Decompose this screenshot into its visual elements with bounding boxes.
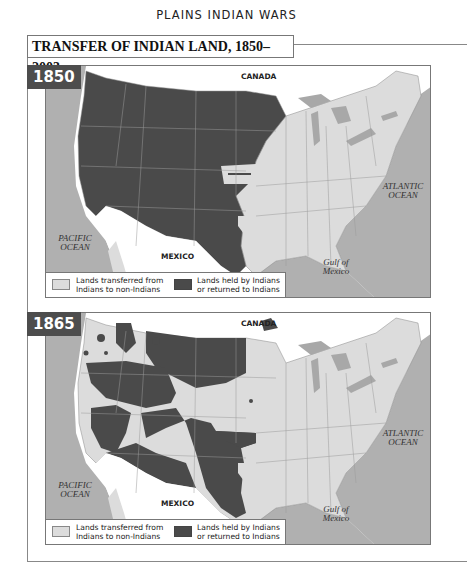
legend-swatch-transferred [52,526,70,537]
label-mexico: MEXICO [161,252,194,261]
legend-swatch-transferred [52,279,70,290]
legend-label-transferred: Lands transferred from Indians to non-In… [76,276,171,294]
year-tag-1865: 1865 [27,312,81,336]
label-gulf-of-mexico: Gulf of Mexico [316,258,356,276]
label-gulf-of-mexico: Gulf of Mexico [316,505,356,523]
map-1865: CANADA MEXICO PACIFIC OCEAN ATLANTIC OCE… [45,312,431,545]
legend-swatch-held [174,526,192,537]
year-tag-1850: 1850 [27,65,81,89]
label-atlantic-ocean: ATLANTIC OCEAN [376,429,430,447]
figure-title: TRANSFER OF INDIAN LAND, 1850–2003 [27,35,294,58]
label-pacific-ocean: PACIFIC OCEAN [50,234,100,252]
legend-label-held: Lands held by Indians or returned to Ind… [197,276,285,294]
label-mexico: MEXICO [161,499,194,508]
label-canada: CANADA [241,319,276,328]
legend-swatch-held [174,279,192,290]
us-map-1850 [46,66,431,298]
legend-1865: Lands transferred from Indians to non-In… [46,519,286,544]
page-header: PLAINS INDIAN WARS [0,8,453,22]
legend-label-transferred: Lands transferred from Indians to non-In… [76,523,171,541]
legend-label-held: Lands held by Indians or returned to Ind… [197,523,285,541]
label-canada: CANADA [241,72,276,81]
us-map-1865 [46,313,431,545]
legend-1850: Lands transferred from Indians to non-In… [46,272,286,297]
label-atlantic-ocean: ATLANTIC OCEAN [376,182,430,200]
label-pacific-ocean: PACIFIC OCEAN [50,481,100,499]
map-1850: CANADA MEXICO PACIFIC OCEAN ATLANTIC OCE… [45,65,431,298]
